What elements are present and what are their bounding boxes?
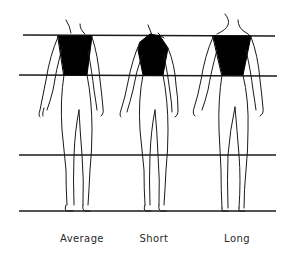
torso-block-average	[58, 36, 92, 75]
label-short: Short	[140, 233, 169, 244]
figure-long	[193, 14, 263, 211]
label-long: Long	[224, 233, 250, 244]
diagram-canvas: Average Short Long	[0, 0, 290, 256]
figure-short	[120, 25, 178, 211]
figures-illustration	[0, 0, 290, 256]
torso-block-long	[213, 36, 251, 75]
torso-block-short	[138, 34, 168, 75]
label-average: Average	[60, 233, 104, 244]
figure-average	[39, 20, 103, 211]
